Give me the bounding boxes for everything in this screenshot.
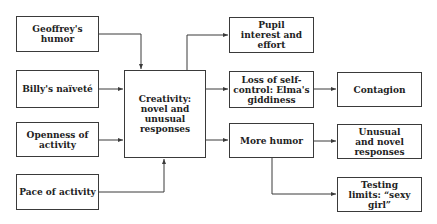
node-billys-naivete: Billy's naïveté [16,70,99,108]
node-creativity: Creativity: novel and unusual responses [124,70,206,158]
node-loss-of-self-control: Loss of self-control: Elma's giddiness [229,71,314,108]
node-more-humor: More humor [229,123,314,158]
node-openness-of-activity: Openness of activity [16,122,99,157]
node-pace-of-activity: Pace of activity [16,174,99,210]
node-pupil-interest: Pupil interest and effort [229,17,314,53]
node-geoffreys-humor: Geoffrey's humor [16,16,99,52]
node-contagion: Contagion [337,72,422,107]
node-testing-limits: Testing limits: “sexy girl” [337,177,422,212]
node-unusual-novel-responses: Unusual and novel responses [337,124,422,159]
